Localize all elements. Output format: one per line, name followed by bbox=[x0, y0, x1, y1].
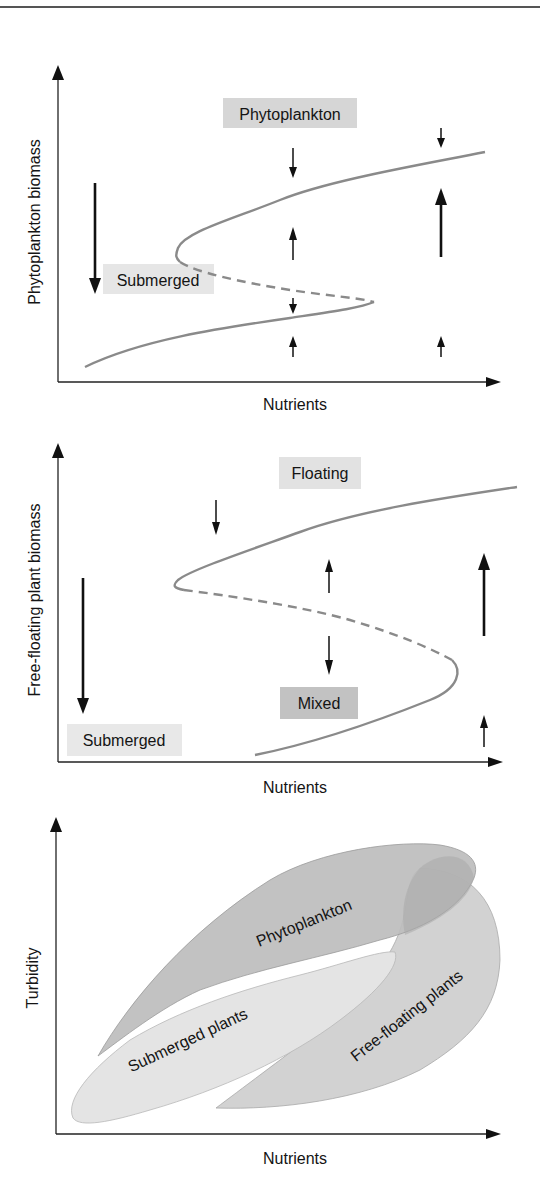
arrowhead-up-icon bbox=[480, 715, 488, 728]
arrowhead-down-icon bbox=[289, 167, 297, 178]
arrowhead-up-icon bbox=[325, 559, 333, 572]
y-axis-label: Free-floating plant biomass bbox=[26, 504, 43, 697]
y-axis-label: Turbidity bbox=[24, 948, 41, 1009]
arrowhead-up-icon bbox=[437, 336, 445, 347]
x-axis-arrowhead-icon bbox=[486, 377, 501, 387]
arrowhead-down-icon bbox=[437, 138, 445, 148]
arrowhead-up-icon bbox=[478, 553, 490, 570]
arrowhead-up-icon bbox=[289, 227, 297, 240]
arrowhead-down-icon bbox=[289, 304, 297, 314]
x-axis-arrowhead-icon bbox=[488, 757, 503, 767]
arrowhead-down-icon bbox=[77, 698, 89, 714]
arrowhead-down-icon bbox=[325, 660, 333, 675]
state-label-submerged: Submerged bbox=[83, 732, 166, 749]
panel-a: Phytoplankton biomass Nutrients Phytopla… bbox=[26, 65, 501, 413]
unstable-branch bbox=[184, 590, 452, 660]
arrowhead-up-icon bbox=[435, 188, 447, 205]
arrowhead-down-icon bbox=[212, 522, 220, 535]
figure-canvas: Phytoplankton biomass Nutrients Phytopla… bbox=[0, 0, 540, 1188]
state-label-floating: Floating bbox=[292, 465, 349, 482]
y-axis-arrowhead-icon bbox=[52, 443, 64, 458]
x-axis-arrowhead-icon bbox=[486, 1129, 501, 1139]
state-label-mixed: Mixed bbox=[298, 695, 341, 712]
y-axis-arrowhead-icon bbox=[52, 65, 64, 80]
state-label-submerged: Submerged bbox=[117, 272, 200, 289]
x-axis-label: Nutrients bbox=[263, 779, 327, 796]
upper-stable-branch bbox=[175, 487, 517, 590]
y-axis-label: Phytoplankton biomass bbox=[26, 139, 43, 304]
upper-stable-branch bbox=[176, 152, 485, 262]
lower-stable-branch bbox=[85, 302, 374, 367]
x-axis-label: Nutrients bbox=[263, 396, 327, 413]
arrowhead-down-icon bbox=[89, 278, 101, 294]
y-axis-arrowhead-icon bbox=[50, 817, 62, 832]
state-label-phytoplankton: Phytoplankton bbox=[239, 106, 340, 123]
arrowhead-up-icon bbox=[289, 336, 297, 347]
x-axis-label: Nutrients bbox=[263, 1150, 327, 1167]
panel-c: Turbidity Nutrients Phytoplankton Submer… bbox=[24, 817, 501, 1167]
panel-b: Free-floating plant biomass Nutrients Fl… bbox=[26, 443, 517, 796]
